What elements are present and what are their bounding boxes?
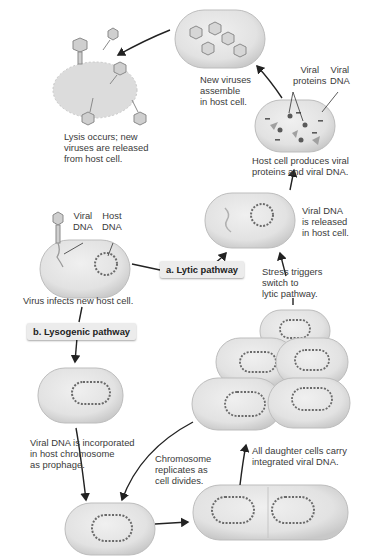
- lytic-pathway-label: a. Lytic pathway: [160, 261, 244, 278]
- replicates-label: Chromosome replicates as cell divides.: [155, 453, 211, 486]
- daughter-cell-cluster: [192, 310, 350, 430]
- prophage-cell: [38, 368, 123, 423]
- lysogenic-pathway-label: b. Lysogenic pathway: [27, 323, 136, 340]
- infect-label: Virus infects new host cell.: [23, 295, 133, 306]
- prophage-label: Viral DNA is incorporated in host chromo…: [30, 437, 135, 470]
- infect-viral-dna-label: Viral DNA: [73, 210, 93, 232]
- infect-host-dna-label: Host DNA: [102, 210, 122, 232]
- viral-proteins-label: Viral proteins: [293, 64, 326, 86]
- produces-cell: [255, 100, 335, 152]
- assemble-cell: [175, 10, 265, 68]
- assemble-label: New viruses assemble in host cell.: [200, 74, 251, 107]
- daughters-label: All daughter cells carry integrated vira…: [252, 445, 347, 467]
- released-cell: [205, 193, 295, 248]
- two-daughter-cells: [193, 485, 348, 540]
- stress-label: Stress triggers switch to lytic pathway.: [262, 266, 322, 299]
- lysis-label: Lysis occurs; new viruses are released f…: [64, 131, 148, 164]
- lysed-cell: [53, 28, 146, 125]
- released-label: Viral DNA is released in host cell.: [302, 205, 349, 238]
- viral-dna-label-top: Viral DNA: [330, 64, 350, 86]
- dividing-cell: [65, 503, 155, 555]
- produces-label: Host cell produces viral proteins and vi…: [252, 155, 349, 177]
